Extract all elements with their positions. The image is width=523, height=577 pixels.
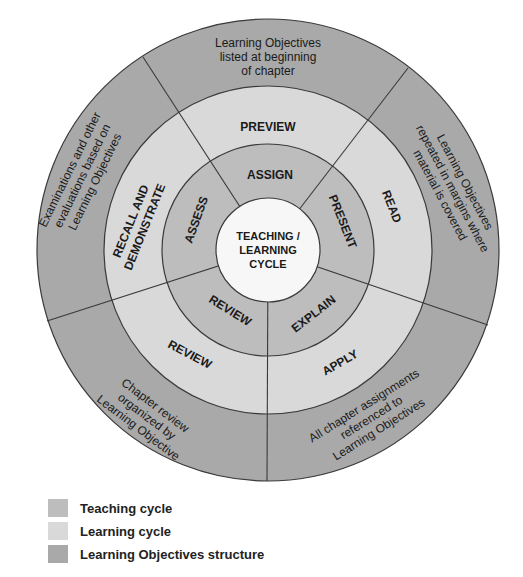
legend-swatch-objectives — [48, 545, 68, 563]
svg-text:of chapter: of chapter — [241, 64, 294, 78]
legend-item-objectives: Learning Objectives structure — [48, 543, 264, 565]
label-assign: ASSIGN — [247, 168, 293, 182]
legend-label: Teaching cycle — [80, 501, 172, 516]
svg-text:Learning Objectives: Learning Objectives — [215, 36, 321, 50]
legend: Teaching cycle Learning cycle Learning O… — [48, 497, 264, 566]
teaching-learning-cycle-diagram: TEACHING / LEARNING CYCLE ASSIGN PRESENT… — [0, 0, 523, 495]
legend-label: Learning cycle — [80, 524, 171, 539]
svg-text:listed at beginning: listed at beginning — [220, 50, 317, 64]
svg-text:CYCLE: CYCLE — [249, 258, 286, 270]
legend-item-learning: Learning cycle — [48, 520, 264, 542]
svg-text:TEACHING /: TEACHING / — [236, 230, 300, 242]
svg-text:LEARNING: LEARNING — [239, 244, 296, 256]
legend-label: Learning Objectives structure — [80, 547, 264, 562]
label-preview: PREVIEW — [240, 120, 296, 134]
legend-swatch-learning — [48, 522, 68, 540]
legend-swatch-teaching — [48, 499, 68, 517]
legend-item-teaching: Teaching cycle — [48, 497, 264, 519]
